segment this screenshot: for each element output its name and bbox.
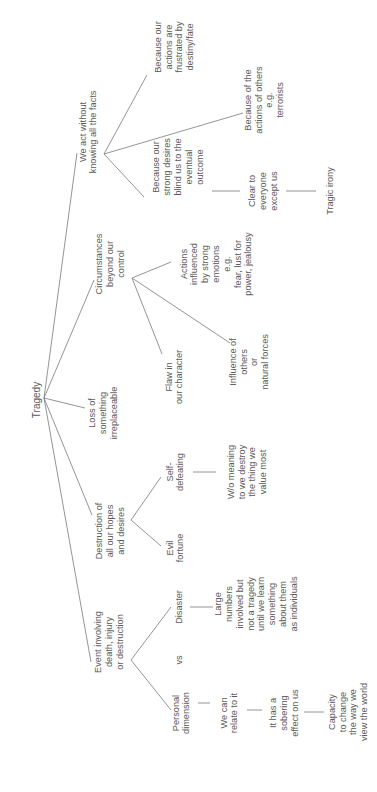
node-event: Event involvingdeath, injuryor destructi… <box>93 611 125 673</box>
edge-event-personal <box>131 660 171 710</box>
node-label-line: dimension <box>181 692 191 734</box>
node-label-line: Event involving <box>93 611 103 673</box>
node-label-line: or <box>249 358 259 366</box>
node-destruction: Destruction ofall our hopesand desires <box>94 502 126 559</box>
node-label-line: view the world <box>359 683 369 741</box>
edge-circ-influence <box>132 278 230 343</box>
node-label-line: Tragic irony <box>325 167 335 215</box>
node-label-line: influenced <box>189 243 199 285</box>
node-label-line: Because our <box>153 21 163 73</box>
node-label: Tragedy <box>31 382 42 418</box>
node-label-line: outcome <box>195 149 205 184</box>
edge-tragedy-event <box>44 398 91 662</box>
node-influence: Influence ofothersornatural forces <box>228 334 270 390</box>
node-label-line: frustrated by <box>174 21 184 72</box>
node-capacity: Capacityto changethe way weview the worl… <box>327 683 369 741</box>
edge-event-disaster <box>131 607 171 660</box>
edge-tragedy-loss <box>44 398 85 408</box>
node-label-line: power, jealousy <box>243 232 253 296</box>
node-label-line: relate to it <box>229 692 239 733</box>
node-label-line: others <box>239 349 249 375</box>
node-label-line: e.g. <box>222 256 232 271</box>
node-label-line: Large <box>213 592 223 616</box>
node-evil: Evilfortune <box>165 534 186 563</box>
node-label-line: Personal <box>171 695 181 731</box>
node-label-line: irreplaceable <box>109 387 119 440</box>
node-label-line: beyond our <box>105 241 115 287</box>
node-label-line: Actions <box>179 249 189 280</box>
node-label-line: W/o meaning <box>226 445 236 499</box>
node-label-line: death, injury <box>104 617 114 667</box>
node-loss: Loss ofsomethingirreplaceable <box>87 387 119 440</box>
node-label-line: actions of others <box>254 66 264 134</box>
node-sobering: It has asoberingeffect on us <box>268 689 300 737</box>
node-clear: Clear toeveryoneexcept us <box>247 171 279 211</box>
node-label-line: effect on us <box>290 689 300 737</box>
node-label-line: Because of the <box>243 69 253 130</box>
node-label-line: as individuals <box>289 576 299 632</box>
node-label-line: value most <box>258 449 268 494</box>
node-vs: vs <box>174 655 184 665</box>
node-label-line: Flaw in <box>164 362 174 391</box>
node-label-line: something <box>267 583 277 625</box>
node-fate: Because ouractions arefrustrated bydesti… <box>153 21 195 73</box>
node-label-line: numbers <box>224 586 234 622</box>
node-flaw: Flaw inour character <box>164 350 185 404</box>
node-relate: We canrelate to it <box>219 692 240 733</box>
node-irony: Tragic irony <box>325 167 335 215</box>
node-label-line: actions are <box>164 25 174 70</box>
node-label-line: Capacity <box>327 694 337 730</box>
node-label-line: Loss of <box>87 398 97 428</box>
edge-tragedy-circumstances <box>44 280 94 398</box>
node-label-line: all our hopes <box>105 504 115 557</box>
node-label-line: destiny/fate <box>185 24 195 71</box>
node-label-line: everyone <box>258 172 268 210</box>
node-tragedy: Tragedy <box>31 382 42 418</box>
node-label-line: fortune <box>175 534 185 563</box>
node-label-line: our character <box>174 350 184 404</box>
node-label-line: involved but <box>235 579 245 628</box>
node-label-line: not a tragedy <box>246 577 256 631</box>
node-label-line: fear, lust for <box>233 240 243 288</box>
node-personal: Personaldimension <box>171 692 192 734</box>
node-label-line: eventual <box>184 150 194 185</box>
edge-act-blind <box>104 154 144 197</box>
node-label-line: Because our <box>151 141 161 193</box>
node-large: Largenumbersinvolved butnot a tragedyunt… <box>213 576 299 632</box>
node-label-line: until we learn <box>256 577 266 631</box>
node-label-line: Self- <box>165 463 175 482</box>
node-label-line: natural forces <box>260 334 270 390</box>
node-others: Because of theactions of otherse.g.terro… <box>243 66 285 134</box>
node-label-line: blind us to the <box>173 138 183 195</box>
node-label-line: e.g. <box>264 92 274 107</box>
node-label-line: and desires <box>116 507 126 555</box>
node-label-line: Disaster <box>174 590 184 624</box>
edge-circ-emotions <box>132 262 171 278</box>
node-act: We act withoutknowing all the facts <box>78 90 99 173</box>
node-label-line: Evil <box>165 541 175 556</box>
node-label-line: about them <box>278 581 288 627</box>
edge-destruction-evil <box>131 520 161 546</box>
node-label-line: except us <box>269 171 279 211</box>
node-label-line: something <box>98 392 108 434</box>
node-label-line: control <box>116 250 126 278</box>
node-label-line: Destruction of <box>94 502 104 559</box>
node-label-line: strong desires <box>162 138 172 196</box>
node-label-line: Circumstances <box>94 233 104 294</box>
nodes-layer: Event involvingdeath, injuryor destructi… <box>78 21 370 741</box>
node-label-line: Influence of <box>228 338 238 386</box>
node-label-line: sobering <box>279 695 289 730</box>
node-label-line: or destruction <box>115 614 125 670</box>
node-label-line: the way we <box>348 689 358 735</box>
node-label-line: the thing we <box>247 447 257 497</box>
node-label-line: Clear to <box>247 175 257 207</box>
node-label-line: terrorists <box>275 82 285 118</box>
node-label-line: It has a <box>268 697 278 728</box>
node-label-line: to change <box>338 692 348 732</box>
node-label-line: We act without <box>78 102 88 163</box>
node-selfdef: Self-defeating <box>165 453 186 491</box>
node-label-line: by strong <box>200 245 210 283</box>
node-disaster: Disaster <box>174 590 184 624</box>
edge-circ-flaw <box>132 278 162 354</box>
mind-map-canvas: Tragedy Event involvingdeath, injuryor d… <box>0 0 377 792</box>
